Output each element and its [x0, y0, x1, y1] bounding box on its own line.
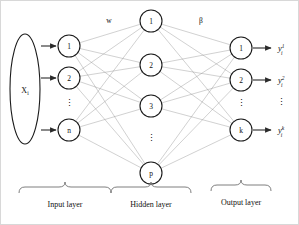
- connection-line: [80, 67, 140, 77]
- input-layer-node-label-1: 1: [67, 42, 71, 51]
- connection-line: [79, 135, 142, 168]
- connection-line: [159, 88, 234, 165]
- output-label-superscript-1: 1: [282, 43, 285, 49]
- output-label-3: yki: [277, 125, 285, 138]
- connection-line: [160, 71, 232, 123]
- network-diagram-canvas: Xi 12n 123p 12k ⋮ ⋮ ⋮ w β y1iy2iyki ⋮ In…: [1, 1, 299, 225]
- neural-network-figure: Xi 12n 123p 12k ⋮ ⋮ ⋮ w β y1iy2iyki ⋮ In…: [0, 0, 299, 225]
- input-layer-node-label-2: 2: [67, 74, 71, 83]
- output-layer-node-label-1: 1: [239, 44, 243, 53]
- input-to-hidden-connections: [75, 24, 145, 168]
- hidden-layer-caption: Hidden layer: [130, 200, 172, 209]
- connection-line: [157, 57, 234, 164]
- connection-line: [78, 72, 143, 123]
- input-source-group: Xi: [10, 34, 40, 144]
- connection-line: [80, 109, 141, 127]
- output-layer-brace: [211, 180, 271, 191]
- connection-line: [76, 86, 144, 164]
- hidden-layer-node-label-1: 1: [149, 17, 153, 26]
- output-layer-ellipsis: ⋮: [237, 98, 246, 108]
- hidden-layer-nodes: 123p: [140, 10, 162, 184]
- connection-line: [162, 83, 231, 103]
- input-layer-ellipsis: ⋮: [65, 98, 74, 108]
- hidden-layer-brace: [111, 182, 191, 193]
- output-layer-brace-group: Output layer: [211, 180, 271, 207]
- weight-beta-label: β: [199, 16, 203, 25]
- input-layer-nodes: 12n: [58, 35, 80, 141]
- output-layer-node-label-2: 2: [239, 76, 243, 85]
- output-label-1: y1i: [277, 43, 285, 56]
- input-layer-node-label-n: n: [67, 126, 71, 135]
- output-label-subscript-1: i: [281, 50, 283, 56]
- hidden-layer-node-label-2: 2: [149, 61, 153, 70]
- output-labels-ellipsis: ⋮: [277, 97, 286, 107]
- output-label-2: y2i: [277, 75, 285, 88]
- connection-line: [78, 52, 142, 99]
- output-layer-nodes: 12k: [230, 37, 252, 141]
- output-value-labels: y1iy2iyki: [277, 43, 285, 138]
- output-label-subscript-3: i: [281, 132, 283, 138]
- input-layer-brace-group: Input layer: [19, 182, 111, 209]
- connection-line: [162, 109, 231, 127]
- weight-w-label: w: [106, 16, 112, 25]
- input-feed-arrows: [41, 46, 56, 130]
- hidden-layer-node-label-p: p: [149, 169, 153, 178]
- output-layer-node-label-k: k: [239, 126, 243, 135]
- output-label-superscript-3: k: [282, 125, 285, 131]
- connection-line: [160, 27, 232, 74]
- connection-line: [162, 50, 230, 63]
- input-layer-caption: Input layer: [48, 200, 83, 209]
- output-label-subscript-2: i: [281, 82, 283, 88]
- connection-line: [162, 67, 230, 78]
- connection-line: [158, 29, 234, 121]
- connection-line: [161, 135, 231, 169]
- hidden-layer-brace-group: Hidden layer: [111, 182, 191, 209]
- hidden-to-output-connections: [157, 24, 234, 168]
- input-layer-brace: [19, 182, 111, 193]
- connection-line: [80, 24, 141, 43]
- output-layer-caption: Output layer: [221, 198, 262, 207]
- output-feed-arrows: [253, 48, 271, 130]
- connection-line: [79, 82, 140, 103]
- output-label-superscript-2: 2: [282, 75, 285, 81]
- hidden-layer-node-label-3: 3: [149, 102, 153, 111]
- hidden-layer-ellipsis: ⋮: [147, 133, 156, 143]
- connection-line: [78, 27, 142, 71]
